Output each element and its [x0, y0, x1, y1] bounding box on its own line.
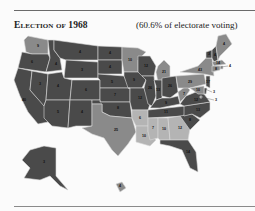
electoral-vote-label: 13 [156, 88, 160, 92]
state-ak [22, 146, 68, 190]
electoral-vote-label: 10 [196, 88, 200, 92]
state-fl [160, 140, 198, 172]
electoral-vote-label: 9 [133, 78, 135, 82]
electoral-vote-label: 4 [109, 65, 111, 69]
state-ny [180, 58, 214, 76]
electoral-vote-label: 17 [206, 80, 210, 84]
electoral-vote-label: 4 [79, 50, 81, 54]
state-nm [68, 100, 92, 128]
electoral-vote-label: 3 [213, 90, 215, 94]
electoral-vote-label: 4 [229, 64, 231, 68]
electoral-vote-label: 4 [57, 84, 59, 88]
electoral-vote-label: 8 [189, 118, 191, 122]
electoral-vote-label: 14 [216, 61, 220, 65]
electoral-vote-label: 3 [43, 160, 45, 164]
electoral-vote-label: 7 [152, 126, 154, 130]
electoral-vote-label: 43 [198, 68, 202, 72]
us-election-map: 9640344345644457825109126101226211326911… [0, 0, 255, 211]
state-az [44, 100, 70, 128]
electoral-vote-label: 4 [214, 53, 216, 57]
electoral-vote-label: 8 [117, 106, 119, 110]
electoral-vote-label: 9 [165, 101, 167, 105]
electoral-vote-label: 12 [194, 98, 198, 102]
electoral-vote-label: 7 [114, 93, 116, 97]
state-hi [116, 182, 126, 192]
electoral-vote-label: 3 [39, 82, 41, 86]
electoral-vote-label: 4 [119, 184, 121, 188]
bottom-rule [14, 206, 255, 207]
electoral-vote-label: 10 [162, 127, 166, 131]
electoral-vote-label: 4 [81, 110, 83, 114]
electoral-vote-label: 10 [142, 134, 146, 138]
electoral-vote-label: 26 [148, 86, 152, 90]
electoral-vote-label: 14 [186, 150, 190, 154]
electoral-vote-label: 7 [183, 92, 185, 96]
electoral-vote-label: 3 [208, 52, 210, 56]
state-wa [24, 36, 48, 54]
state-me [216, 34, 232, 60]
electoral-vote-label: 26 [168, 84, 172, 88]
electoral-vote-label: 29 [188, 80, 192, 84]
electoral-vote-label: 11 [164, 110, 168, 114]
electoral-vote-label: 5 [111, 80, 113, 84]
electoral-vote-label: 12 [144, 64, 148, 68]
electoral-vote-label: 12 [178, 126, 182, 130]
state-ri [220, 66, 223, 69]
electoral-vote-label: 12 [138, 96, 142, 100]
electoral-vote-label: 5 [57, 110, 59, 114]
electoral-vote-label: 25 [114, 128, 118, 132]
electoral-vote-label: 6 [31, 60, 33, 64]
electoral-vote-label: 6 [139, 116, 141, 120]
electoral-vote-label: 4 [223, 42, 225, 46]
state-de [204, 88, 207, 94]
electoral-vote-label: 10 [128, 58, 132, 62]
electoral-vote-label: 9 [37, 44, 39, 48]
electoral-vote-label: 40 [22, 98, 26, 102]
electoral-vote-label: 8 [215, 67, 217, 71]
electoral-vote-label: 3 [215, 98, 217, 102]
electoral-vote-label: 21 [162, 70, 166, 74]
electoral-vote-label: 6 [85, 88, 87, 92]
electoral-vote-label: 4 [55, 62, 57, 66]
electoral-vote-label: 4 [109, 51, 111, 55]
state-mt [54, 40, 98, 60]
electoral-vote-label: 13 [196, 108, 200, 112]
electoral-vote-label: 3 [81, 68, 83, 72]
